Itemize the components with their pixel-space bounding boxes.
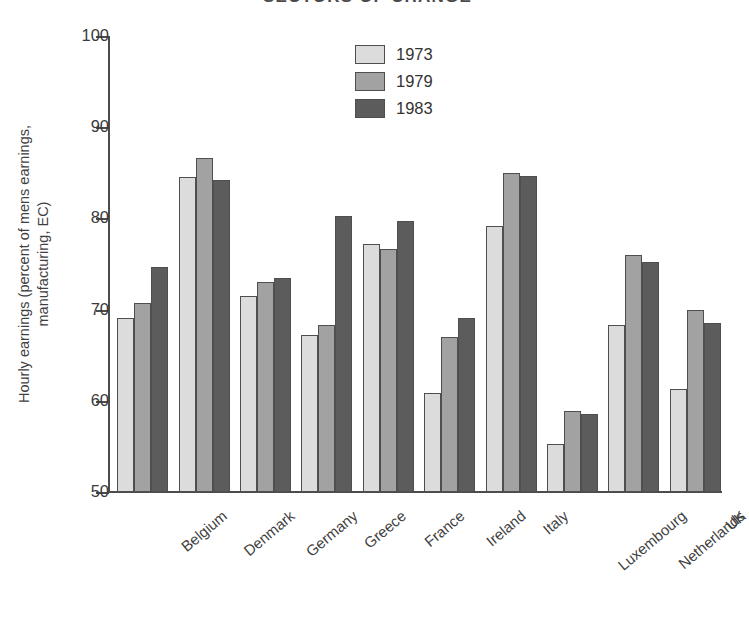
bar <box>564 411 581 492</box>
bar <box>608 325 625 492</box>
legend-label: 1983 <box>396 99 433 118</box>
x-axis-label: Germany <box>302 507 360 560</box>
bar-group <box>301 36 352 492</box>
bar <box>301 335 318 492</box>
x-axis-label: Greece <box>360 507 409 552</box>
bar-group <box>240 36 291 492</box>
x-axis-label: Belgium <box>177 507 229 555</box>
bar-group <box>547 36 598 492</box>
bar <box>424 393 441 492</box>
bar <box>441 337 458 492</box>
bar <box>240 296 257 492</box>
x-axis-label: Ireland <box>482 507 528 550</box>
bar <box>547 444 564 492</box>
y-tick-label: 50 <box>57 482 109 501</box>
x-axis-label: France <box>421 507 468 550</box>
bar <box>134 303 151 492</box>
bar <box>335 216 352 492</box>
bar <box>670 389 687 492</box>
y-axis-title: Hourly earnings (percent of mens earning… <box>15 44 53 484</box>
legend-swatch <box>355 72 385 91</box>
bar <box>397 221 414 492</box>
bar <box>486 226 503 492</box>
bar <box>581 414 598 492</box>
bar <box>257 282 274 492</box>
legend-swatch <box>355 99 385 118</box>
y-tick-label: 80 <box>57 208 109 227</box>
chart-title: SECTORS OF CHANGE <box>0 0 735 7</box>
bar-group <box>117 36 168 492</box>
bar <box>363 244 380 492</box>
bar <box>458 318 475 492</box>
bar <box>274 278 291 492</box>
bar <box>179 177 196 492</box>
legend-item: 1983 <box>355 95 495 122</box>
bar <box>380 249 397 492</box>
bar <box>704 323 721 492</box>
bar <box>687 310 704 492</box>
bar <box>503 173 520 492</box>
bar <box>151 267 168 492</box>
legend: 197319791983 <box>355 41 495 122</box>
bar <box>520 176 537 492</box>
bar <box>318 325 335 492</box>
y-tick-label: 70 <box>57 300 109 319</box>
legend-swatch <box>355 45 385 64</box>
y-tick-label: 90 <box>57 117 109 136</box>
x-axis-labels: BelgiumDenmarkGermanyGreeceFranceIreland… <box>108 493 722 620</box>
x-axis-label: Italy <box>540 507 572 538</box>
bar <box>625 255 642 492</box>
bar-group <box>608 36 659 492</box>
y-tick-label: 60 <box>57 391 109 410</box>
legend-item: 1973 <box>355 41 495 68</box>
legend-label: 1973 <box>396 45 433 64</box>
x-axis-label: Denmark <box>240 507 298 559</box>
y-tick-label: 100 <box>57 26 109 45</box>
bar-group <box>179 36 230 492</box>
bar <box>117 318 134 492</box>
y-axis-title-line1: Hourly earnings (percent of mens earning… <box>15 44 34 484</box>
x-axis-label: Luxembourg <box>614 507 689 574</box>
bar-group <box>670 36 721 492</box>
bar <box>213 180 230 492</box>
bar <box>196 158 213 492</box>
legend-label: 1979 <box>396 72 433 91</box>
y-axis-title-line2: manufacturing, EC) <box>34 44 53 484</box>
legend-item: 1979 <box>355 68 495 95</box>
bar <box>642 262 659 492</box>
